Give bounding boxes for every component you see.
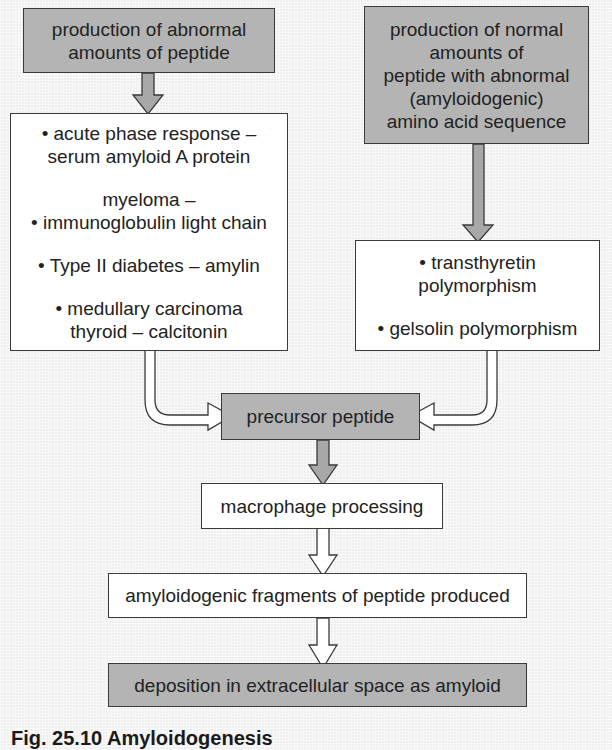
box-text: macrophage processing — [221, 495, 424, 518]
figure-caption: Fig. 25.10 Amyloidogenesis — [11, 727, 273, 750]
arrow-left-to-precursor — [145, 351, 232, 430]
cause-item: thyroid – calcitonin — [70, 320, 227, 343]
cause-item: • transthyretin — [419, 251, 535, 274]
box-deposition: deposition in extracellular space as amy… — [108, 663, 527, 707]
box-text: peptide with abnormal — [384, 64, 570, 87]
cause-item: myeloma – — [103, 188, 196, 211]
box-amyloidogenic-fragments: amyloidogenic fragments of peptide produ… — [108, 573, 527, 618]
box-text: precursor peptide — [247, 405, 395, 428]
box-text: (amyloidogenic) — [409, 87, 543, 110]
box-causes-left: • acute phase response – serum amyloid A… — [10, 113, 288, 351]
cause-item: • immunoglobulin light chain — [31, 211, 267, 234]
box-precursor-peptide: precursor peptide — [221, 393, 420, 440]
box-text: production of normal — [390, 18, 563, 41]
arrow-macrophage-to-fragments — [309, 528, 337, 576]
box-text: deposition in extracellular space as amy… — [134, 674, 500, 697]
box-macrophage-processing: macrophage processing — [201, 483, 443, 529]
cause-item: • acute phase response – — [42, 122, 257, 145]
box-text: amounts of peptide — [68, 41, 230, 64]
arrow-normal-to-causes — [463, 144, 493, 242]
cause-item: • Type II diabetes – amylin — [38, 254, 260, 277]
box-abnormal-amounts: production of abnormal amounts of peptid… — [23, 8, 275, 73]
arrow-precursor-to-macrophage — [309, 440, 337, 485]
box-causes-right: • transthyretin polymorphism • gelsolin … — [355, 240, 600, 351]
cause-item: serum amyloid A protein — [48, 145, 251, 168]
box-normal-amounts: production of normal amounts of peptide … — [364, 6, 589, 144]
box-text: production of abnormal — [52, 18, 246, 41]
cause-item: • gelsolin polymorphism — [378, 317, 578, 340]
cause-item: polymorphism — [418, 274, 536, 297]
box-text: amounts of — [430, 41, 524, 64]
arrow-fragments-to-deposition — [309, 618, 337, 668]
box-text: amino acid sequence — [387, 110, 567, 133]
cause-item: • medullary carcinoma — [55, 297, 242, 320]
arrow-right-to-precursor — [410, 351, 497, 430]
arrow-abnormal-to-causes — [133, 73, 163, 114]
box-text: amyloidogenic fragments of peptide produ… — [125, 584, 509, 607]
